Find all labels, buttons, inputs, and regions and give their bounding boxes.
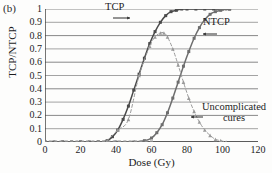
data-point	[150, 137, 153, 140]
y-tick-label: 0.6	[30, 57, 43, 67]
data-point	[45, 141, 47, 143]
data-point	[81, 141, 84, 143]
data-point	[171, 97, 174, 100]
x-tick-label: 20	[76, 145, 86, 155]
data-point	[155, 131, 158, 134]
data-point	[132, 89, 135, 92]
data-point	[176, 63, 180, 67]
annotation-arrowhead	[127, 16, 130, 19]
data-point	[91, 141, 94, 143]
data-point	[49, 141, 52, 143]
data-point	[194, 9, 197, 11]
annotation-arrowhead	[203, 32, 206, 35]
data-point	[161, 123, 164, 126]
series-uncomplicated-cures	[105, 31, 228, 142]
series-baseline-markers	[45, 141, 153, 143]
annotation-uncomplicated-cures: Uncomplicated cures	[198, 101, 270, 123]
data-point	[187, 50, 190, 53]
data-point	[166, 111, 169, 114]
data-point	[225, 9, 228, 11]
annotation-ntcp: NTCP	[203, 16, 230, 27]
figure-panel-b: (b) TCP/NTCP Dose (Gy) 00.10.20.30.40.50…	[0, 0, 272, 173]
y-tick-label: 0.5	[30, 71, 43, 81]
data-point	[159, 21, 162, 24]
y-tick-label: 0.7	[30, 44, 43, 54]
data-point	[228, 9, 231, 11]
data-point	[219, 139, 223, 142]
data-point	[177, 81, 180, 84]
y-tick-label: 0.2	[30, 110, 43, 120]
y-axis-title: TCP/NTCP	[6, 14, 18, 90]
data-point	[175, 9, 178, 12]
x-tick-label: 120	[251, 145, 266, 155]
data-point	[102, 141, 105, 143]
data-point	[186, 9, 189, 11]
data-point	[122, 118, 125, 121]
data-point	[129, 141, 132, 143]
data-point	[180, 9, 183, 11]
x-tick-label: 60	[147, 145, 157, 155]
data-point	[59, 141, 62, 143]
data-point	[113, 141, 116, 143]
data-point	[182, 80, 186, 84]
annotation-tcp-text: TCP	[105, 1, 124, 12]
x-tick-label: 40	[111, 145, 121, 155]
annotation-ntcp-text: NTCP	[203, 16, 230, 27]
data-point	[134, 141, 137, 143]
data-point	[170, 10, 173, 13]
data-point	[182, 65, 185, 68]
data-point	[164, 14, 167, 17]
annotation-tcp: TCP	[105, 1, 124, 12]
y-tick-label: 0	[37, 137, 42, 147]
data-point	[214, 10, 217, 13]
x-tick-label: 0	[43, 145, 48, 155]
data-point	[192, 110, 196, 114]
data-point	[154, 30, 157, 33]
y-tick-label: 0.1	[30, 124, 43, 134]
y-tick-label: 0.3	[30, 97, 43, 107]
data-point	[75, 141, 78, 143]
data-point	[150, 141, 153, 143]
data-point	[86, 141, 89, 143]
data-point	[123, 141, 126, 143]
y-tick-label: 0.8	[30, 31, 43, 41]
x-tick-label: 100	[215, 145, 230, 155]
data-point	[193, 37, 196, 40]
data-point	[203, 9, 206, 11]
data-point	[127, 105, 130, 108]
data-point	[219, 9, 222, 12]
annotation-uc-line1: Uncomplicated	[202, 101, 266, 112]
panel-label: (b)	[3, 2, 16, 14]
data-point	[187, 96, 191, 100]
x-axis-title: Dose (Gy)	[44, 156, 259, 168]
y-tick-label: 1	[37, 4, 42, 14]
data-point	[65, 141, 68, 143]
y-tick-label: 0.9	[30, 17, 43, 27]
data-point	[198, 26, 201, 29]
y-tick-label: 0.4	[30, 84, 43, 94]
x-tick-label: 80	[182, 145, 192, 155]
annotation-uc-line2: cures	[223, 112, 245, 123]
data-point	[70, 141, 73, 143]
data-point	[127, 118, 131, 122]
data-point	[139, 141, 142, 143]
data-point	[145, 141, 148, 143]
data-point	[54, 141, 57, 143]
data-point	[107, 141, 110, 143]
data-point	[118, 141, 121, 143]
annotation-arrowhead	[191, 115, 194, 118]
data-point	[97, 141, 100, 143]
